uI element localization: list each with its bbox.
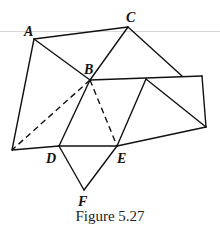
segment-DF [59,146,84,190]
segment-GE [117,79,146,146]
segment-AP [12,39,34,150]
dashed-segment-BE [90,80,117,146]
segment-TE [117,127,206,146]
label-B: B [83,62,93,77]
segment-AB [34,39,90,80]
segment-FE [84,146,117,190]
figure-caption: Figure 5.27 [0,208,220,225]
segment-BD [59,80,90,146]
label-E: E [116,151,126,166]
segment-CR [128,27,182,76]
segment-GT [146,79,206,127]
segment-PD [12,146,59,150]
label-D: D [45,151,56,166]
label-A: A [23,24,33,39]
label-C: C [126,10,136,25]
segment-AC [34,27,128,39]
segment-CB [90,27,128,80]
segment-ST [202,76,206,127]
geometry-figure: A C B D E F [0,0,220,233]
label-F: F [77,194,88,209]
